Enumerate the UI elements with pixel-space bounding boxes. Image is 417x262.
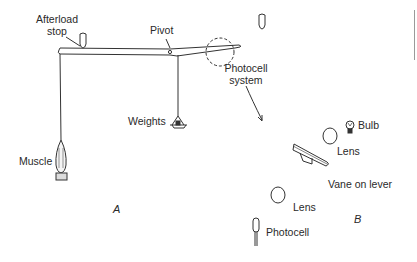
photocell-label: Photocell [266,226,309,238]
panel-b-label: B [354,213,361,225]
pivot-arrow [166,39,170,48]
diagram-canvas: Afterload stop Pivot Photocell system We… [0,0,417,262]
muscle-clamp [56,173,67,180]
photocell-system-arrow [246,86,262,120]
photocell-system-line2: system [222,74,270,86]
lever [58,45,241,56]
upper-stop-icon [259,14,265,29]
afterload-label-line1: Afterload [33,13,81,25]
bulb-label: Bulb [358,119,379,131]
bulb-icon [346,121,354,129]
pivot-label: Pivot [150,24,173,36]
photocell-system-label: Photocell system [222,62,270,86]
vane-on-lever-label: Vane on lever [328,178,392,190]
vane-icon [293,144,328,166]
afterload-label-line2: stop [33,25,81,37]
panel-a-label: A [113,203,120,215]
weights-label: Weights [128,115,166,127]
lower-lens [271,187,285,203]
muscle-string [60,54,61,140]
muscle-label: Muscle [19,155,52,167]
upper-lens [323,128,337,144]
photocell-system-line1: Photocell [222,62,270,74]
photocell-icon [253,218,259,232]
lens-upper-label: Lens [337,145,360,157]
page-edge-line [414,10,415,60]
muscle-icon [56,140,66,173]
lens-lower-label: Lens [293,201,316,213]
afterload-arrow [66,37,80,46]
afterload-stop-label: Afterload stop [33,13,81,37]
